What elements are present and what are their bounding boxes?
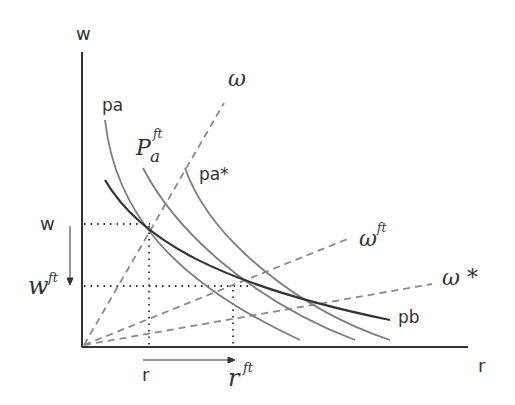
label-pa-ft-sub: a: [150, 146, 160, 166]
label-omega: ω: [228, 66, 246, 91]
arrow-r-right: [143, 357, 235, 363]
label-pa-star: pa*: [199, 164, 229, 184]
label-pa-ft-sup: ft: [152, 127, 162, 141]
label-r-ft: r: [228, 364, 241, 392]
x-axis-label: r: [478, 355, 486, 376]
label-w-ft-sup: ft: [47, 270, 59, 285]
label-w: w: [40, 213, 55, 234]
y-axis-label: w: [76, 23, 91, 44]
curve-pa: [105, 120, 300, 340]
ray-omega-ft: [84, 238, 350, 345]
factor-price-diagram: w r pa P a ft pa* pb ω ω ft ω * w w ft r…: [0, 0, 515, 405]
label-omega-ft-sup: ft: [376, 221, 386, 235]
label-omega-star: ω *: [442, 265, 478, 290]
label-w-ft: w: [28, 272, 49, 300]
label-omega-ft: ω: [359, 226, 377, 251]
label-r-ft-sup: ft: [242, 360, 254, 375]
label-pb: pb: [398, 307, 420, 327]
label-r: r: [142, 364, 150, 385]
label-pa: pa: [102, 95, 123, 115]
arrow-w-down: [67, 226, 73, 285]
